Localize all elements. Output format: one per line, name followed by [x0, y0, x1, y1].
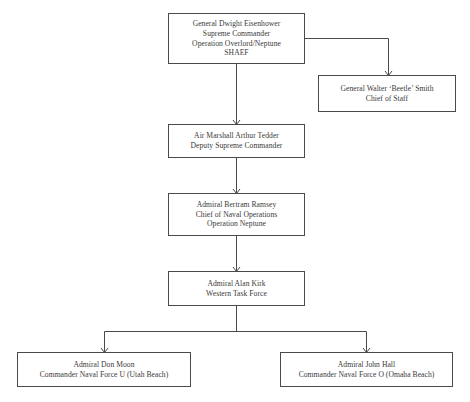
node-text: Commander Naval Force O (Omaha Beach) [299, 370, 435, 380]
node-text: Operation Overlord/Neptune [192, 39, 281, 49]
node-text: Chief of Staff [366, 94, 408, 104]
node-text: Admiral John Hall [338, 360, 395, 370]
node-text: Commander Naval Force U (Utah Beach) [40, 370, 169, 380]
node-text: SHAEF [224, 48, 248, 58]
node-tedder: Air Marshall Arthur Tedder Deputy Suprem… [168, 124, 305, 158]
node-text: Admiral Don Moon [73, 360, 134, 370]
org-chart: General Dwight Eisenhower Supreme Comman… [0, 0, 470, 402]
node-kirk: Admiral Alan Kirk Western Task Force [168, 271, 305, 306]
node-eisenhower: General Dwight Eisenhower Supreme Comman… [168, 13, 305, 64]
node-text: Deputy Supreme Commander [191, 141, 283, 151]
node-text: Air Marshall Arthur Tedder [194, 131, 279, 141]
node-hall: Admiral John Hall Commander Naval Force … [280, 352, 453, 387]
node-text: Operation Neptune [207, 219, 266, 229]
node-text: Western Task Force [206, 289, 267, 299]
node-text: Supreme Commander [203, 29, 270, 39]
node-text: General Dwight Eisenhower [193, 19, 281, 29]
node-text: Admiral Bertram Ramsey [197, 200, 277, 210]
node-text: General Walter ‘Beetle’ Smith [340, 84, 433, 94]
node-text: Chief of Naval Operations [196, 210, 278, 220]
node-text: Admiral Alan Kirk [207, 279, 265, 289]
node-ramsey: Admiral Bertram Ramsey Chief of Naval Op… [168, 193, 305, 236]
connector-eisenhower-smith [304, 39, 389, 76]
node-moon: Admiral Don Moon Commander Naval Force U… [17, 352, 191, 387]
node-smith: General Walter ‘Beetle’ Smith Chief of S… [318, 75, 456, 112]
